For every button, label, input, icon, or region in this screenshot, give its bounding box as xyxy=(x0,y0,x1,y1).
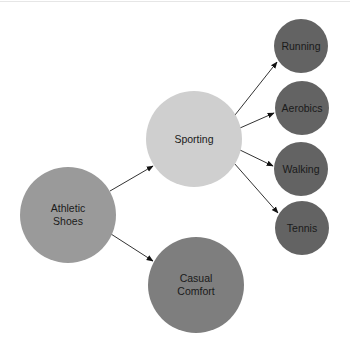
edge-sporting-walking xyxy=(240,150,273,166)
edge-sporting-aerobics xyxy=(240,113,274,128)
node-label: Sporting xyxy=(174,133,213,145)
node-aerobics[interactable]: Aerobics xyxy=(275,81,329,135)
edge-athletic-casual xyxy=(111,234,153,261)
node-label: Tennis xyxy=(287,222,317,234)
diagram-canvas: Athletic Shoes Sporting Casual Comfort R… xyxy=(0,0,350,351)
node-label: Aerobics xyxy=(282,102,323,114)
node-label: Athletic xyxy=(51,202,85,214)
node-tennis[interactable]: Tennis xyxy=(275,201,329,255)
edge-sporting-running xyxy=(235,62,277,115)
edge-athletic-sporting xyxy=(110,166,153,191)
node-casual-comfort[interactable]: Casual Comfort xyxy=(148,237,244,333)
node-label: Walking xyxy=(283,163,320,175)
edge-sporting-tennis xyxy=(234,163,278,213)
node-walking[interactable]: Walking xyxy=(274,142,328,196)
node-running[interactable]: Running xyxy=(274,19,328,73)
node-label: Comfort xyxy=(177,285,214,297)
node-label: Casual xyxy=(180,272,213,284)
node-label: Shoes xyxy=(53,215,83,227)
node-label: Running xyxy=(281,40,320,52)
node-athletic-shoes[interactable]: Athletic Shoes xyxy=(20,167,116,263)
node-sporting[interactable]: Sporting xyxy=(146,91,242,187)
